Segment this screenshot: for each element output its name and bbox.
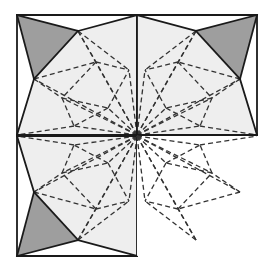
quadrant-top-right <box>137 15 257 135</box>
triangulation-figure <box>0 0 268 277</box>
quadrant-bottom-right <box>137 136 257 256</box>
quadrant-bottom-left <box>17 136 137 256</box>
triangulation-svg <box>0 0 268 277</box>
quadrants-layer <box>17 15 257 256</box>
quadrant-top-left <box>17 15 137 135</box>
